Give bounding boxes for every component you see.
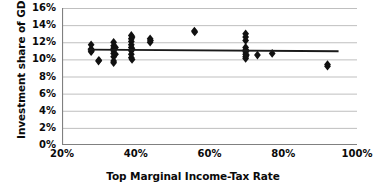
x-tick-label: 40% [124,148,148,159]
plot-area [62,8,357,145]
x-axis-tick-labels: 20%40%60%80%100% [62,148,357,164]
y-axis-tick-labels: 0%2%4%6%8%10%12%14%16% [22,0,56,193]
plot-canvas [62,8,357,145]
x-axis-title: Top Marginal Income-Tax Rate [0,170,386,182]
gridlines [62,9,357,129]
x-tick-label: 100% [342,148,373,159]
x-tick-label: 60% [198,148,222,159]
y-tick-label: 12% [24,37,56,47]
trendline [88,50,339,52]
x-tick-label: 80% [271,148,295,159]
scatter-chart: Investment share of GDP 0%2%4%6%8%10%12%… [0,0,386,193]
y-tick-label: 8% [24,72,56,82]
y-tick-label: 4% [24,106,56,116]
data-point-group [88,27,331,71]
y-tick-label: 16% [24,3,56,13]
y-tick-label: 14% [24,20,56,30]
x-tick-label: 20% [50,148,74,159]
y-tick-label: 6% [24,89,56,99]
y-tick-label: 10% [24,54,56,64]
y-tick-label: 2% [24,123,56,133]
